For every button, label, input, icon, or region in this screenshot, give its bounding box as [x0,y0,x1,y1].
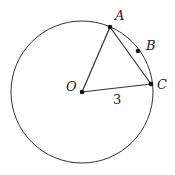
radius-length-label: 3 [113,92,121,107]
point-O [80,90,85,95]
label-C: C [157,77,167,92]
point-C [149,82,154,87]
segment-OC [82,84,151,92]
label-A: A [114,8,124,23]
point-B [136,49,141,54]
segment-OA [82,27,110,92]
point-A [108,25,113,30]
label-B: B [145,38,156,53]
label-O: O [66,79,77,94]
segment-AC [110,27,151,84]
circle-diagram: O A B C 3 [0,0,175,175]
